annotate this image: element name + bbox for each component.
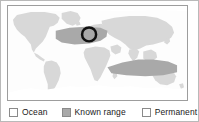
- figure-container: Ocean Known range Permanent ice: [0, 0, 199, 122]
- legend-item-known-range[interactable]: Known range: [62, 107, 126, 117]
- legend-swatch-ocean: [9, 108, 18, 117]
- legend-label-permanent-ice: Permanent ice: [155, 107, 199, 117]
- legend-item-ocean[interactable]: Ocean: [9, 107, 48, 117]
- world-map-svg: [8, 6, 187, 100]
- legend-label-known-range: Known range: [75, 107, 126, 117]
- map-legend: Ocean Known range Permanent ice: [7, 105, 193, 119]
- world-map-panel: [7, 5, 188, 101]
- legend-label-ocean: Ocean: [22, 107, 48, 117]
- legend-item-permanent-ice[interactable]: Permanent ice: [142, 107, 199, 117]
- legend-swatch-permanent-ice: [142, 108, 151, 117]
- legend-swatch-known-range: [62, 108, 71, 117]
